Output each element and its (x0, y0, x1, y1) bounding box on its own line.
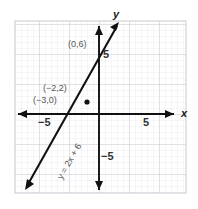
grid-layer (15, 21, 186, 193)
coordinate-plane-svg (0, 0, 198, 209)
data-point-marker (84, 99, 89, 104)
point-label-0-6: (0,6) (68, 39, 87, 49)
x-tick-neg5: −5 (38, 116, 51, 128)
graph-canvas: y x −5 5 5 −5 (0,6) (−2,2) (−3,0) y = 2x… (0, 0, 198, 209)
x-axis-label: x (181, 107, 187, 119)
y-tick-pos5: 5 (103, 48, 109, 60)
x-tick-pos5: 5 (143, 116, 149, 128)
y-axis-label: y (113, 8, 119, 20)
y-tick-neg5: −5 (101, 150, 114, 162)
point-label-neg2-2: (−2,2) (43, 83, 67, 93)
point-label-neg3-0: (−3,0) (33, 95, 57, 105)
